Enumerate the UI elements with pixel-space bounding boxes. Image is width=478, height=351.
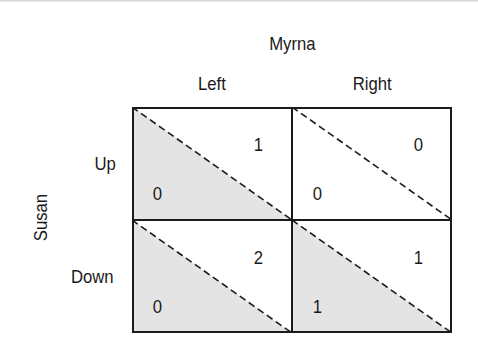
column-player-payoff: 0 bbox=[413, 135, 424, 154]
row-strategy-up: Up bbox=[93, 154, 117, 173]
cell-up-left: 1 0 bbox=[132, 107, 292, 220]
row-player-label: Susan bbox=[31, 178, 50, 258]
row-player-payoff: 0 bbox=[312, 184, 323, 203]
column-strategy-left: Left bbox=[172, 74, 252, 93]
column-strategy-right-text: Right bbox=[352, 74, 391, 93]
column-player-name: Myrna bbox=[269, 34, 315, 53]
row-player-name: Susan bbox=[31, 194, 50, 241]
cell-down-left: 2 0 bbox=[132, 220, 292, 333]
column-player-payoff: 1 bbox=[253, 135, 264, 154]
column-strategy-right: Right bbox=[332, 74, 412, 93]
row-strategy-down-text: Down bbox=[71, 267, 114, 286]
column-strategy-left-text: Left bbox=[198, 74, 226, 93]
row-player-payoff: 0 bbox=[152, 297, 163, 316]
row-strategy-up-text: Up bbox=[94, 154, 115, 173]
cell-up-right: 0 0 bbox=[292, 107, 452, 220]
row-player-payoff: 1 bbox=[312, 297, 323, 316]
column-player-label: Myrna bbox=[232, 34, 352, 53]
column-player-payoff: 2 bbox=[253, 248, 264, 267]
column-player-payoff: 1 bbox=[413, 248, 424, 267]
payoff-matrix: 1 0 0 0 2 0 1 1 bbox=[132, 107, 452, 333]
top-border-line bbox=[0, 0, 478, 2]
cell-down-right: 1 1 bbox=[292, 220, 452, 333]
row-strategy-down: Down bbox=[68, 267, 117, 286]
row-player-payoff: 0 bbox=[152, 184, 163, 203]
